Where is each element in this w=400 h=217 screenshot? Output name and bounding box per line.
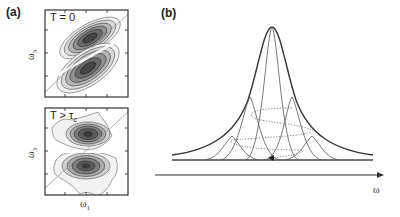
top-plot-ylabel: ω3	[25, 50, 39, 60]
sub-peaks	[205, 27, 339, 160]
title-main: T > τ	[50, 109, 73, 121]
envelope-curve	[172, 27, 373, 155]
lineshape-diagram	[155, 27, 384, 178]
ylabel-main: ω	[25, 151, 36, 158]
axis-arrowhead	[377, 172, 384, 178]
top-plot-title: T = 0	[50, 11, 75, 23]
bottom-plot-xlabel: ω1	[80, 198, 90, 212]
ylabel-sub: 3	[31, 148, 39, 152]
ylabel-main: ω	[25, 53, 36, 60]
bottom-plot-ylabel: ω3	[25, 148, 39, 158]
bottom-plot-title: T > τc	[50, 109, 77, 123]
frequency-axis-label: ω	[373, 184, 380, 195]
xlabel-main: ω	[80, 198, 87, 209]
ylabel-sub: 3	[31, 50, 39, 54]
xlabel-sub: 1	[87, 204, 91, 212]
title-sub: c	[73, 116, 77, 123]
